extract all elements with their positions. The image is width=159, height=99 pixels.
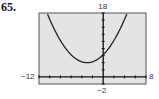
calculator-screen bbox=[39, 13, 146, 84]
ymin-label: −2 bbox=[97, 87, 106, 95]
xmin-label: −12 bbox=[21, 73, 35, 81]
graph-plot bbox=[0, 0, 159, 99]
ymax-label: 18 bbox=[98, 3, 107, 11]
xmax-label: 8 bbox=[149, 73, 153, 81]
